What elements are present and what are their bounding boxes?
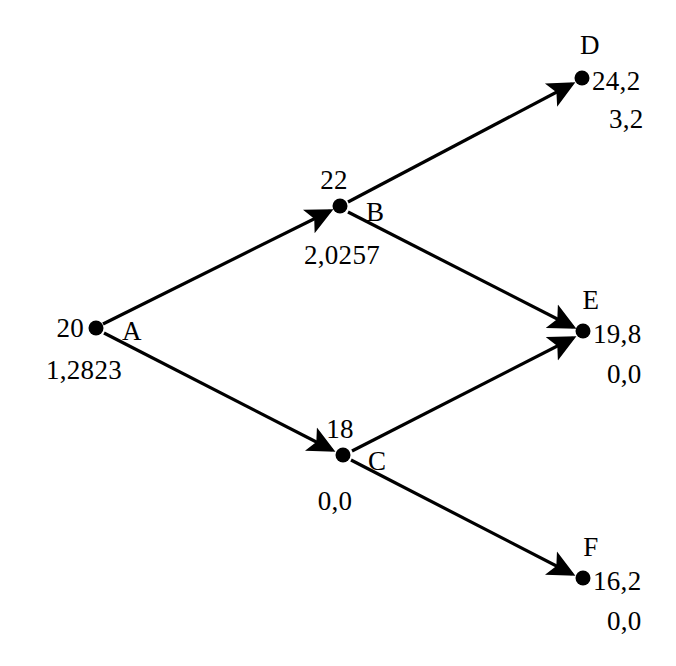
node-dot-e[interactable] [576,324,591,339]
node-dot-d[interactable] [575,71,590,86]
node-d-secondary: 3,2 [609,106,644,133]
graph-canvas [0,0,676,666]
edge-b-d[interactable] [348,84,572,202]
edge-c-e[interactable] [352,338,573,451]
node-e-id: E [583,287,600,314]
edge-c-f[interactable] [351,460,572,574]
node-dot-b[interactable] [333,199,348,214]
node-b-value: 22 [320,167,348,194]
node-a-secondary: 1,2823 [46,357,122,384]
node-f-secondary: 0,0 [607,608,642,635]
edge-a-b[interactable] [103,211,330,324]
node-c-value: 18 [326,416,354,443]
edge-b-e[interactable] [348,212,573,327]
node-f-value: 16,2 [593,568,641,595]
node-d-id: D [580,32,600,59]
node-a-value: 20 [56,315,84,342]
node-dot-a[interactable] [89,321,104,336]
node-e-secondary: 0,0 [607,361,642,388]
node-c-id: C [368,448,386,475]
node-b-secondary: 2,0257 [304,242,380,269]
node-b-id: B [366,199,384,226]
node-d-value: 24,2 [592,68,640,95]
node-a-id: A [122,318,142,345]
edge-a-c[interactable] [104,333,332,450]
node-e-value: 19,8 [593,321,641,348]
node-f-id: F [583,534,598,561]
network-diagram: 20 A 1,2823 22 B 2,0257 18 C 0,0 D 24,2 … [0,0,676,666]
node-c-secondary: 0,0 [318,488,353,515]
node-dot-c[interactable] [336,448,351,463]
node-dot-f[interactable] [576,571,591,586]
